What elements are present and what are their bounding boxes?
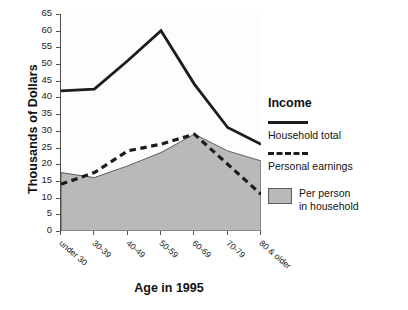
legend-item-personal-earnings: Personal earnings [268, 152, 404, 173]
y-tick-label: 25 [41, 141, 52, 152]
y-tick-label: 35 [41, 107, 52, 118]
x-tick-mark-2 [127, 231, 128, 235]
y-tick-label: 55 [41, 40, 52, 51]
legend-label-per-person-line2: in household [299, 200, 359, 212]
x-tick-mark-6 [260, 231, 261, 235]
legend-item-household-total: Household total [268, 121, 404, 142]
x-tick-mark-5 [227, 231, 228, 235]
y-tick-label: 30 [41, 124, 52, 135]
y-tick-label: 20 [41, 157, 52, 168]
x-tick-label-3: 50-59 [157, 238, 180, 260]
y-tick-label: 60 [41, 24, 52, 35]
y-tick-label: 50 [41, 57, 52, 68]
y-tick-label: 40 [41, 90, 52, 101]
x-tick-label-5: 70-79 [224, 238, 247, 260]
x-tick-label-2: 40-49 [124, 238, 147, 260]
x-tick-label-1: 30-39 [91, 238, 114, 260]
chart-canvas [61, 14, 261, 231]
x-tick-mark-3 [160, 231, 161, 235]
x-tick-mark-4 [193, 231, 194, 235]
legend-label-per-person: Per person in household [299, 187, 359, 212]
x-axis-title: Age in 1995 [64, 281, 274, 295]
y-tick-label: 65 [41, 7, 52, 18]
chart-legend: Income Household total Personal earnings… [268, 96, 404, 222]
series-line-household-total [61, 31, 261, 145]
solid-line-swatch-icon [268, 121, 308, 124]
dashed-line-swatch-icon [268, 152, 308, 155]
y-tick-label: 15 [41, 174, 52, 185]
legend-label-household-total: Household total [268, 129, 404, 142]
legend-title: Income [268, 96, 404, 110]
x-tick-label-6: 80 & older [257, 238, 293, 271]
gray-box-swatch-icon [268, 188, 292, 204]
y-tick-label: 45 [41, 74, 52, 85]
y-tick-label: 10 [41, 191, 52, 202]
income-by-age-chart: Thousands of Dollars 0510152025303540455… [0, 0, 408, 310]
x-tick-mark-1 [93, 231, 94, 235]
legend-item-per-person: Per person in household [268, 188, 404, 212]
y-tick-label: 0 [47, 224, 52, 235]
x-tick-mark-0 [60, 231, 61, 235]
y-tick-label: 5 [47, 207, 52, 218]
y-axis-title: Thousands of Dollars [26, 34, 40, 224]
x-tick-label-0: under 30 [57, 238, 89, 268]
legend-label-per-person-line1: Per person [299, 187, 350, 199]
plot-area [60, 14, 260, 231]
x-tick-label-4: 60-69 [191, 238, 214, 260]
series-area-per-person [61, 134, 261, 231]
legend-label-personal-earnings: Personal earnings [268, 160, 404, 173]
